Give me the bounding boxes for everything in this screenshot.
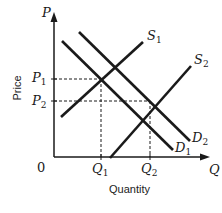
d2-label: D2 bbox=[192, 130, 208, 147]
demand-curve-d1 bbox=[62, 41, 173, 150]
supply-demand-diagram: P Q 0 Price Quantity P1 P2 Q1 Q2 S1 S2 D… bbox=[0, 0, 222, 213]
x-axis-title: Quantity bbox=[109, 183, 150, 195]
p1-label: P1 bbox=[32, 70, 46, 87]
s2-label: S2 bbox=[194, 52, 209, 69]
q1-label: Q1 bbox=[92, 161, 108, 178]
origin-label: 0 bbox=[37, 160, 45, 175]
q2-label: Q2 bbox=[141, 161, 157, 178]
x-axis-arrow-icon bbox=[200, 154, 210, 161]
p2-label: P2 bbox=[32, 93, 46, 110]
s1-label: S1 bbox=[147, 28, 162, 45]
d1-label: D1 bbox=[175, 140, 191, 157]
y-axis-arrow-icon bbox=[51, 12, 58, 22]
x-axis-symbol: Q bbox=[209, 162, 220, 177]
y-axis-symbol: P bbox=[42, 5, 51, 20]
y-axis-title: Price bbox=[11, 68, 23, 108]
